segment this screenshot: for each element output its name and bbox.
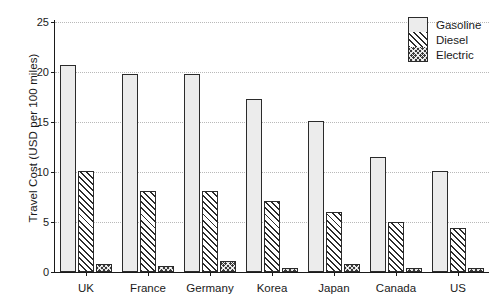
x-tick-mark (272, 272, 273, 276)
x-tick-mark (210, 272, 211, 276)
y-tick-label: 20 (37, 67, 49, 78)
x-axis-label-canada: Canada (376, 282, 416, 294)
bar-korea-diesel (264, 201, 280, 272)
x-tick-mark (86, 272, 87, 276)
bars (55, 22, 117, 272)
bar-group-germany: Germany (179, 22, 241, 272)
x-axis-label-uk: UK (78, 282, 94, 294)
bar-group-japan: Japan (303, 22, 365, 272)
legend-label-diesel: Diesel (436, 34, 468, 46)
x-axis-label-korea: Korea (257, 282, 288, 294)
x-tick-mark (148, 272, 149, 276)
x-axis-label-us: US (450, 282, 466, 294)
legend-swatch-diesel (408, 32, 428, 47)
bar-us-diesel (450, 228, 466, 272)
y-axis-title: Travel Cost (USD per 100 miles) (27, 13, 39, 263)
bar-uk-diesel (78, 171, 94, 272)
bar-france-diesel (140, 191, 156, 272)
bar-japan-diesel (326, 212, 342, 272)
bar-canada-gasoline (370, 157, 386, 272)
bar-france-electric (158, 266, 174, 272)
bar-germany-diesel (202, 191, 218, 272)
bar-canada-diesel (388, 222, 404, 272)
y-tick-label: 5 (43, 217, 49, 228)
y-tick-label: 25 (37, 17, 49, 28)
bars (179, 22, 241, 272)
bar-japan-gasoline (308, 121, 324, 272)
x-axis-label-france: France (130, 282, 166, 294)
bars (241, 22, 303, 272)
legend-label-gasoline: Gasoline (436, 19, 481, 31)
bar-japan-electric (344, 264, 360, 273)
bar-group-uk: UK (55, 22, 117, 272)
bar-uk-electric (96, 264, 112, 272)
legend-item-electric[interactable]: Electric (408, 47, 474, 62)
legend-item-diesel[interactable]: Diesel (408, 32, 468, 47)
bars (117, 22, 179, 272)
y-tick-mark (51, 272, 55, 273)
bar-group-korea: Korea (241, 22, 303, 272)
legend-item-gasoline[interactable]: Gasoline (408, 17, 481, 32)
y-tick-label: 10 (37, 167, 49, 178)
legend-label-electric: Electric (436, 49, 474, 61)
bar-chart: Travel Cost (USD per 100 miles) 05101520… (0, 0, 495, 303)
bar-korea-electric (282, 268, 298, 272)
bar-canada-electric (406, 268, 422, 272)
bar-france-gasoline (122, 74, 138, 272)
bar-group-france: France (117, 22, 179, 272)
x-axis-label-germany: Germany (186, 282, 233, 294)
y-tick-label: 15 (37, 117, 49, 128)
bar-uk-gasoline (60, 65, 76, 272)
bars (303, 22, 365, 272)
x-axis-label-japan: Japan (318, 282, 349, 294)
bar-us-electric (468, 268, 484, 273)
bar-us-gasoline (432, 171, 448, 272)
legend-swatch-electric (408, 47, 428, 62)
chart-legend: GasolineDieselElectric (408, 17, 481, 62)
x-tick-mark (334, 272, 335, 276)
x-tick-mark (396, 272, 397, 276)
x-tick-mark (458, 272, 459, 276)
legend-swatch-gasoline (408, 17, 428, 32)
bar-korea-gasoline (246, 99, 262, 272)
bar-germany-gasoline (184, 74, 200, 272)
y-tick-label: 0 (43, 267, 49, 278)
bar-germany-electric (220, 261, 236, 272)
